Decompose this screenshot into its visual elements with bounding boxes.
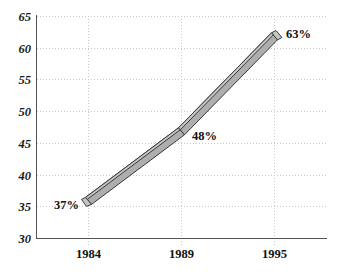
x-tick-label-1984: 1984 xyxy=(76,247,102,261)
data-label-1989: 48% xyxy=(192,129,217,143)
y-tick-label-40: 40 xyxy=(18,169,32,183)
chart-canvas: 65 60 55 50 45 40 35 30 1984 1989 1995 3… xyxy=(0,0,348,272)
x-tick-label-1995: 1995 xyxy=(262,247,287,261)
y-tick-label-35: 35 xyxy=(18,200,32,214)
data-label-1984: 37% xyxy=(54,198,79,212)
x-tick-label-1989: 1989 xyxy=(169,247,194,261)
y-tick-label-45: 45 xyxy=(18,137,32,151)
y-tick-label-65: 65 xyxy=(19,10,32,24)
line-chart: 65 60 55 50 45 40 35 30 1984 1989 1995 3… xyxy=(0,0,348,272)
y-tick-label-50: 50 xyxy=(19,105,32,119)
y-tick-label-30: 30 xyxy=(18,232,32,246)
data-label-1995: 63% xyxy=(286,27,311,41)
y-tick-label-55: 55 xyxy=(19,73,32,87)
y-tick-label-60: 60 xyxy=(19,42,32,56)
